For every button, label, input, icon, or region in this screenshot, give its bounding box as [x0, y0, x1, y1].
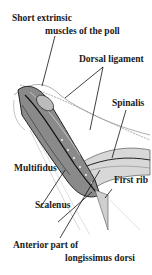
label-anterior-longissimus: Anterior part of — [13, 240, 78, 250]
label-dorsal-ligament: Dorsal ligament — [79, 54, 144, 64]
neck-muscle-illustration — [0, 0, 152, 275]
label-anterior-longissimus-line2: longissimus dorsi — [65, 253, 135, 263]
label-short-extrinsic-muscles-line2: muscles of the poll — [45, 26, 120, 36]
label-spinalis: Spinalis — [112, 98, 144, 108]
label-short-extrinsic-muscles: Short extrinsic — [12, 13, 72, 23]
label-first-rib: First rib — [114, 175, 148, 185]
label-multifidus: Multifidus — [14, 163, 57, 173]
label-scalenus: Scalenus — [35, 200, 70, 210]
